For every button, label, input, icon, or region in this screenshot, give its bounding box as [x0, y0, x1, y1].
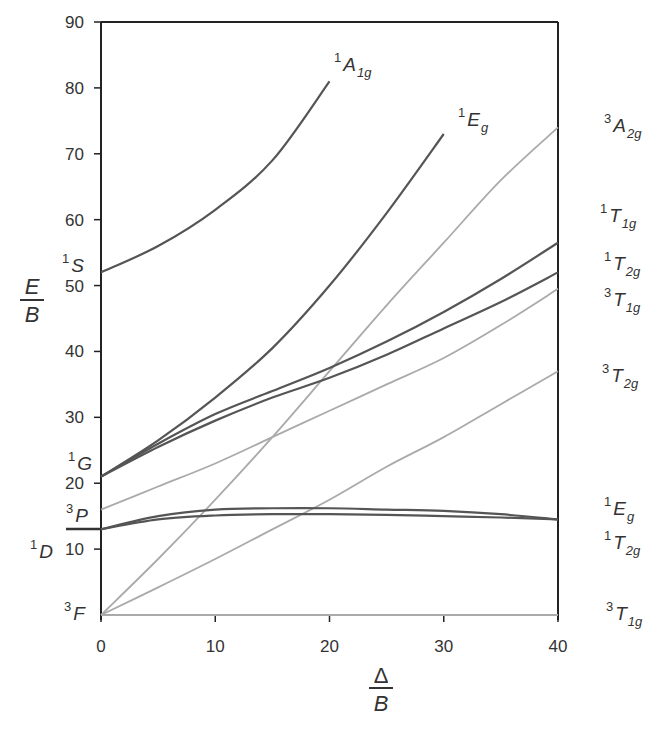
x-tick-label: 10: [206, 637, 225, 656]
series-line-3t2g: [101, 371, 558, 615]
strong-field-term-3T1g: 3T1g: [604, 285, 641, 315]
svg-text:B: B: [374, 691, 389, 716]
y-tick-label: 70: [65, 145, 84, 164]
y-tick-label: 80: [65, 79, 84, 98]
y-tick-label: 60: [65, 211, 84, 230]
x-axis-label: Δ B: [369, 663, 393, 716]
tanabe-sugano-chart: 102030405060708090 010203040 E B Δ B 1S1…: [0, 0, 670, 730]
strong-field-term-3A2g: 3A2g: [604, 111, 642, 141]
inline-term-labels: 1A1g1Eg: [334, 50, 489, 135]
plot-frame: [101, 22, 558, 620]
strong-field-term-1Eg: 1Eg: [604, 494, 635, 524]
series-line-3a2g: [101, 127, 558, 615]
x-tick-label: 30: [434, 637, 453, 656]
series-line-1t2g-g-: [101, 272, 558, 476]
strong-field-term-3T1g: 3T1g: [606, 599, 643, 629]
y-axis-ticks: 102030405060708090: [65, 13, 101, 559]
inline-term-1A1g: 1A1g: [334, 50, 372, 80]
inline-term-1Eg: 1Eg: [458, 105, 489, 135]
svg-text:Δ: Δ: [374, 663, 389, 688]
series-line-1a1g: [101, 81, 330, 272]
series-line-3t1g-p-: [101, 289, 558, 510]
x-tick-label: 20: [320, 637, 339, 656]
strong-field-term-1T2g: 1T2g: [604, 528, 641, 558]
x-tick-label: 0: [96, 637, 105, 656]
x-tick-label: 40: [549, 637, 568, 656]
y-tick-label: 20: [65, 474, 84, 493]
strong-field-term-3T2g: 3T2g: [602, 361, 639, 391]
y-tick-label: 30: [65, 408, 84, 427]
series-line-1eg-g-: [101, 134, 444, 477]
strong-field-term-labels: 3A2g1T1g1T2g3T1g3T2g1Eg1T2g3T1g: [600, 111, 643, 629]
y-tick-label: 50: [65, 277, 84, 296]
free-ion-term-3F: 3F: [64, 599, 86, 624]
series-line-1t2g-d-: [101, 514, 558, 529]
strong-field-term-1T1g: 1T1g: [600, 201, 637, 231]
y-tick-label: 40: [65, 342, 84, 361]
free-ion-term-3P: 3P: [66, 501, 88, 526]
free-ion-term-1D: 1D: [30, 537, 53, 562]
y-tick-label: 10: [65, 540, 84, 559]
free-ion-term-1S: 1S: [62, 251, 84, 276]
y-tick-label: 90: [65, 13, 84, 32]
strong-field-term-1T2g: 1T2g: [604, 249, 641, 279]
svg-text:B: B: [25, 302, 40, 327]
y-axis-label: E B: [20, 274, 44, 327]
svg-text:E: E: [25, 274, 40, 299]
free-ion-term-1G: 1G: [68, 449, 92, 474]
series-lines: [101, 81, 558, 615]
x-axis-ticks: 010203040: [96, 615, 567, 656]
